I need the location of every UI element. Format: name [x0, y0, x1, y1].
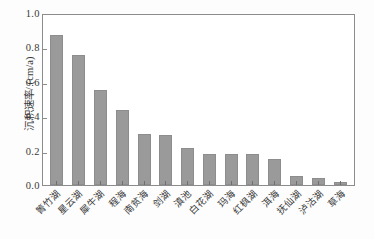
y-tick-label: 0.8	[10, 43, 40, 53]
bar-slot	[286, 15, 308, 185]
x-tick-mark	[296, 181, 297, 185]
x-tick-mark	[231, 181, 232, 185]
x-axis-tick-labels: 箐竹湖星云湖犀牛湖程海南贫海剑湖滇池白花湖玛海红枫湖洱海抚仙湖泸沽湖草海	[42, 188, 355, 238]
bar-slot	[46, 15, 68, 185]
bar-slot	[90, 15, 112, 185]
bar-slot	[111, 15, 133, 185]
x-label-slot: 草海	[330, 188, 352, 238]
plot-area	[42, 14, 355, 186]
x-label-slot: 红枫湖	[242, 188, 264, 238]
y-axis-tick-labels: 1.00.80.60.40.20.0	[10, 14, 40, 186]
bar-slot	[177, 15, 199, 185]
bar-slot	[329, 15, 351, 185]
bar-slot	[68, 15, 90, 185]
bar[interactable]	[94, 90, 107, 185]
bar-slot	[133, 15, 155, 185]
x-tick-mark	[122, 181, 123, 185]
y-tick-mark	[43, 153, 47, 154]
y-tick-label: 1.0	[10, 9, 40, 19]
y-tick-label: 0.0	[10, 181, 40, 191]
y-tick-mark	[43, 118, 47, 119]
y-tick-mark	[43, 84, 47, 85]
y-tick-mark	[43, 49, 47, 50]
bar[interactable]	[138, 134, 151, 185]
x-label-slot: 泸沽湖	[308, 188, 330, 238]
y-tick-label: 0.6	[10, 78, 40, 88]
bar-slot	[220, 15, 242, 185]
x-label-slot: 南贫海	[133, 188, 155, 238]
y-tick-label: 0.4	[10, 112, 40, 122]
y-tick-label: 0.2	[10, 147, 40, 157]
bar[interactable]	[72, 55, 85, 185]
x-tick-mark	[274, 181, 275, 185]
x-tick-mark	[252, 181, 253, 185]
x-tick-mark	[144, 181, 145, 185]
sedimentation-rate-bar-chart: 沉积速率/ (cm/a) 1.00.80.60.40.20.0 箐竹湖星云湖犀牛…	[0, 0, 374, 239]
x-label-slot: 白花湖	[198, 188, 220, 238]
bar[interactable]	[181, 148, 194, 185]
bar-slot	[264, 15, 286, 185]
x-tick-mark	[340, 181, 341, 185]
bar-slot	[155, 15, 177, 185]
x-tick-mark	[318, 181, 319, 185]
x-label-slot: 剑湖	[155, 188, 177, 238]
bar[interactable]	[116, 110, 129, 185]
bar-slot	[242, 15, 264, 185]
x-tick-mark	[165, 181, 166, 185]
x-tick-mark	[187, 181, 188, 185]
x-tick-label: 剑湖	[151, 188, 173, 210]
x-tick-mark	[209, 181, 210, 185]
bar-series	[43, 15, 354, 185]
bar-slot	[198, 15, 220, 185]
x-tick-mark	[56, 181, 57, 185]
x-label-slot: 犀牛湖	[89, 188, 111, 238]
bar[interactable]	[50, 35, 63, 185]
bar-slot	[307, 15, 329, 185]
bar[interactable]	[159, 135, 172, 185]
x-tick-mark	[100, 181, 101, 185]
x-tick-mark	[78, 181, 79, 185]
x-tick-label: 草海	[327, 188, 349, 210]
